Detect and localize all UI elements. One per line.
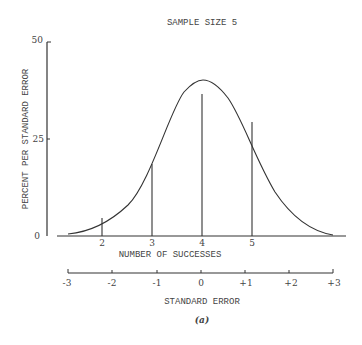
x-tick-label-2: 2: [99, 238, 105, 248]
se-tick-m2: -2: [108, 278, 117, 288]
x-tick-label-5: 5: [249, 238, 255, 248]
se-ticks: [68, 269, 333, 273]
y-tick-label-50: 50: [32, 35, 44, 45]
y-tick-label-0: 0: [34, 231, 40, 241]
se-tick-p1: +1: [239, 278, 252, 288]
x-tick-label-3: 3: [149, 238, 155, 248]
se-tick-p2: +2: [284, 278, 297, 288]
se-tick-m1: -1: [153, 278, 162, 288]
normal-curve: [68, 80, 333, 235]
se-tick-m3: -3: [63, 278, 72, 288]
chart-title: SAMPLE SIZE 5: [167, 18, 237, 28]
x-axis-label: NUMBER OF SUCCESSES: [119, 250, 222, 260]
chart: SAMPLE SIZE 5 50 25 0 PERCENT PER STANDA…: [0, 0, 362, 345]
se-tick-0: 0: [198, 278, 204, 288]
se-axis-label: STANDARD ERROR: [164, 297, 240, 307]
x-tick-label-4: 4: [199, 238, 205, 248]
se-tick-p3: +3: [327, 278, 341, 288]
figure-caption: (a): [195, 315, 209, 325]
y-axis-label: PERCENT PER STANDARD ERROR: [21, 68, 31, 209]
y-tick-label-25: 25: [33, 134, 45, 144]
